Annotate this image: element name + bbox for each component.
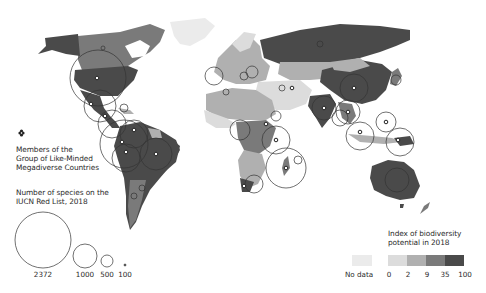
size-label-100: 100 (117, 270, 133, 279)
size-label-1000: 1000 (73, 270, 97, 279)
index-legend-title: Index of biodiversity potential in 2018 (388, 229, 461, 247)
circle-mauritius (294, 156, 302, 164)
region-russia (260, 24, 410, 64)
size-circle-500 (101, 255, 113, 267)
size-label-500: 500 (99, 270, 115, 279)
size-label-2372: 2372 (30, 270, 56, 279)
no-data-label: No data (342, 270, 376, 279)
flower-icon (154, 152, 158, 156)
flower-icon (132, 128, 136, 132)
species-size-legend (15, 212, 126, 268)
flower-icon (358, 130, 362, 134)
region-alaska (38, 34, 80, 56)
flower-icon (18, 129, 24, 136)
size-circle-1000 (73, 244, 97, 268)
tick-9: 9 (422, 270, 432, 279)
tick-0: 0 (384, 270, 394, 279)
swatch-level-3 (426, 255, 445, 266)
swatch-no-data (352, 255, 372, 266)
flower-icon (124, 150, 128, 154)
flower-icon (290, 86, 294, 90)
tick-100: 100 (456, 270, 474, 279)
megadiverse-legend-label: Members of the Group of Like-Minded Mega… (16, 145, 99, 173)
region-australia (370, 160, 420, 200)
swatch-level-1 (388, 255, 407, 266)
region-africa-central (236, 120, 276, 156)
swatch-level-4 (445, 255, 464, 266)
flower-icon (120, 140, 124, 144)
swatch-level-2 (407, 255, 426, 266)
flower-icon (384, 120, 388, 124)
flower-icon (352, 86, 356, 90)
region-indonesia (348, 134, 402, 144)
flower-icon (242, 184, 246, 188)
region-argentina (128, 180, 146, 228)
region-new-zealand (420, 202, 430, 214)
flower-icon (89, 102, 93, 106)
flower-icon (95, 76, 99, 80)
flower-icon (274, 138, 278, 142)
flower-icon (396, 138, 400, 142)
region-greenland (170, 18, 215, 46)
flower-icon (346, 110, 350, 114)
flower-icon (284, 166, 288, 170)
size-circle-100 (124, 264, 126, 266)
tick-2: 2 (403, 270, 413, 279)
tick-35: 35 (438, 270, 452, 279)
region-canada (78, 24, 165, 72)
size-circle-2372 (15, 212, 71, 268)
flower-icon (103, 114, 107, 118)
region-tasmania (400, 204, 404, 208)
flower-icon (322, 106, 326, 110)
species-legend-title: Number of species on the IUCN Red List, … (16, 188, 109, 206)
flower-icon (264, 122, 268, 126)
